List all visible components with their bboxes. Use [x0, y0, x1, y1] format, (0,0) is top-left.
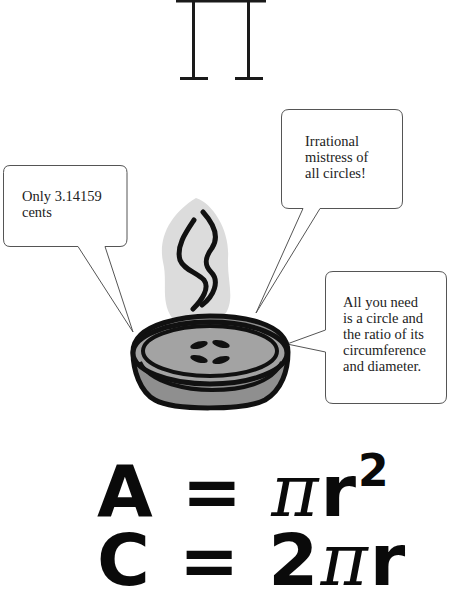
bubble-top-right-text: Irrational mistress of all circles! [305, 133, 400, 181]
bubble-left-text: Only 3.14159 cents [22, 188, 122, 220]
circumference-formula: C = 2πr [97, 524, 407, 593]
steam-icon [162, 198, 230, 318]
area-exponent: 2 [358, 445, 391, 496]
circ-coefficient: 2 [268, 518, 320, 593]
pie-icon [133, 316, 288, 408]
circ-radius: r [370, 518, 408, 593]
pi-symbol: π [320, 518, 369, 593]
pi-symbol-icon [176, 1, 266, 79]
bubble-right-text: All you need is a circle and the ratio o… [343, 294, 447, 374]
circ-equals: = [179, 518, 241, 593]
circ-lhs: C [97, 518, 152, 593]
